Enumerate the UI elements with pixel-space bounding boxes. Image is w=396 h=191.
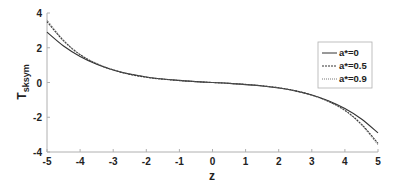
x-tick-label: -5: [43, 156, 52, 167]
x-axis-title: z: [209, 169, 215, 183]
x-tick-label: 3: [309, 156, 315, 167]
x-tick-label: -3: [109, 156, 118, 167]
legend-label-a09: a*=0.9: [339, 73, 367, 84]
x-tick-label: 0: [210, 156, 216, 167]
x-tick-label: 5: [375, 156, 381, 167]
y-axis-title-subscript: sksym: [21, 64, 31, 92]
x-tick-label: -2: [142, 156, 151, 167]
legend: a*=0 a*=0.5 a*=0.9: [318, 42, 372, 88]
y-tick-label: -2: [33, 112, 42, 123]
legend-label-a0: a*=0: [339, 47, 359, 58]
x-tick-label: 1: [243, 156, 249, 167]
x-tick-label: 2: [276, 156, 282, 167]
chart: -5-4-3-2-1012345-4-2024 z Tsksym a*=0 a*…: [0, 0, 396, 191]
x-tick-label: -1: [175, 156, 184, 167]
y-tick-label: 2: [36, 43, 42, 54]
x-tick-label: 4: [342, 156, 348, 167]
y-tick-label: 0: [36, 78, 42, 89]
y-tick-label: -4: [33, 147, 42, 158]
y-tick-label: 4: [36, 8, 42, 19]
x-tick-label: -4: [76, 156, 85, 167]
y-axis-title: Tsksym: [15, 64, 31, 99]
legend-label-a05: a*=0.5: [339, 60, 367, 71]
svg-text:Tsksym: Tsksym: [15, 64, 31, 99]
